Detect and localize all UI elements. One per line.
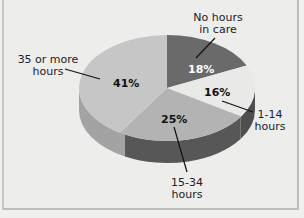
- label-1-14-line2: hours: [255, 120, 286, 133]
- label-no-hours-line2: in care: [199, 23, 237, 36]
- pct-35-more: 41%: [113, 77, 139, 90]
- pct-1-14: 16%: [204, 86, 230, 99]
- pct-no-hours: 18%: [188, 63, 214, 76]
- label-15-34-line2: hours: [172, 188, 203, 201]
- pie-chart: 18% 16% 25% 41% No hours in care 1-14 ho…: [0, 0, 304, 218]
- label-35-more-line2: hours: [33, 65, 64, 78]
- pct-15-34: 25%: [161, 113, 187, 126]
